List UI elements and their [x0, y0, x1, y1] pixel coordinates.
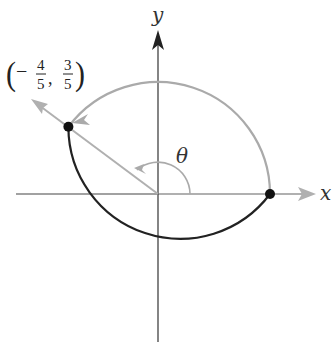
- theta-label: θ: [176, 144, 188, 168]
- y-numerator: 3: [64, 57, 72, 73]
- terminal-point: [63, 122, 73, 132]
- comma: ,: [48, 68, 53, 88]
- minus-sign: −: [16, 60, 27, 82]
- remaining-arc: [68, 127, 270, 239]
- terminal-ray: [40, 106, 158, 194]
- paren-open: (: [6, 54, 16, 92]
- traversed-arc: [68, 82, 270, 194]
- terminal-ray-arrow-icon: [31, 99, 48, 114]
- x-axis-label: x: [320, 181, 331, 205]
- x-denominator: 5: [37, 76, 45, 92]
- point-label: ( − 4 5 , 3 5 ): [6, 54, 85, 92]
- paren-close: ): [75, 54, 85, 92]
- y-axis-label: y: [151, 3, 164, 27]
- x-numerator: 4: [37, 57, 45, 73]
- y-denominator: 5: [64, 76, 72, 92]
- initial-point: [265, 189, 275, 199]
- unit-circle-diagram: y x θ ( − 4 5 , 3 5 ): [0, 0, 335, 351]
